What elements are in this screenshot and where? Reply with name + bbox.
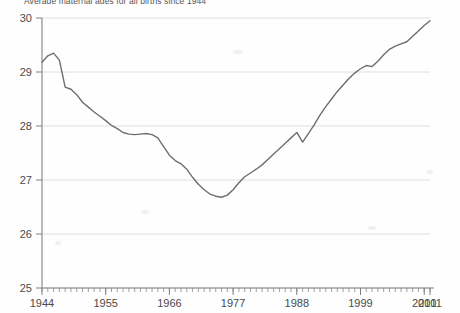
y-tick-label-28: 28 [20,120,32,132]
y-tick-label-27: 27 [20,174,32,186]
y-axis: 30 29 28 27 26 25 [20,12,42,294]
x-tick-label-1955: 1955 [93,297,117,309]
x-tick-label-2011: 2011 [418,297,442,309]
x-tick-label-1999: 1999 [348,297,372,309]
x-tick-label-1944: 1944 [30,297,54,309]
x-tick-label-1977: 1977 [221,297,245,309]
y-tick-label-25: 25 [20,282,32,294]
scan-artifacts [55,50,433,302]
chart-container: Average maternal ages for all births sin… [0,0,460,313]
x-minor-ticks [42,288,430,292]
x-tick-label-1966: 1966 [157,297,181,309]
y-tick-label-26: 26 [20,228,32,240]
y-tick-label-29: 29 [20,66,32,78]
gridlines [42,18,430,288]
data-series-line [42,21,430,198]
x-axis: 19441955196619771988199920102011 [30,288,442,309]
x-tick-labels: 19441955196619771988199920102011 [30,297,442,309]
y-tick-label-30: 30 [20,12,32,24]
line-chart-plot: 30 29 28 27 26 25 1944195519661977198819… [0,0,460,313]
x-tick-label-1988: 1988 [285,297,309,309]
